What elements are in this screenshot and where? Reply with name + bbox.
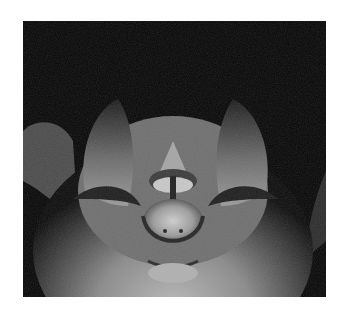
bat-illustration (23, 21, 326, 297)
bat-photo (23, 21, 326, 297)
